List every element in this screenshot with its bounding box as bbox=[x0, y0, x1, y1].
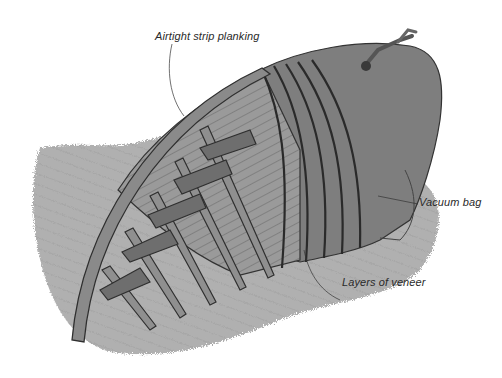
label-vacuum-bag: Vacuum bag bbox=[419, 196, 481, 208]
label-veneer-layers: Layers of veneer bbox=[342, 276, 426, 288]
label-strip-planking: Airtight strip planking bbox=[155, 30, 259, 42]
hull-illustration bbox=[0, 0, 502, 378]
hull-diagram: Airtight strip planking Vacuum bag Layer… bbox=[0, 0, 502, 378]
